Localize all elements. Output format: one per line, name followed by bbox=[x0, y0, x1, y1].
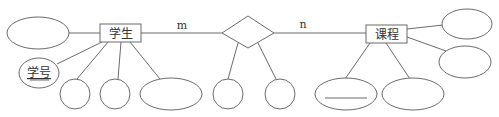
er-diagram: 学生 课程 m n 学号 bbox=[0, 0, 499, 117]
entity-student[interactable]: 学生 bbox=[100, 24, 141, 42]
student-attribute-3[interactable] bbox=[60, 79, 90, 109]
link-course-attr-1 bbox=[407, 25, 443, 29]
link-course-attr-4 bbox=[386, 43, 410, 79]
entity-student-label: 学生 bbox=[109, 26, 133, 41]
link-student-attr-4 bbox=[118, 42, 121, 79]
course-attribute-2[interactable] bbox=[439, 46, 491, 78]
entity-course[interactable]: 课程 bbox=[366, 25, 407, 43]
course-attribute-1[interactable] bbox=[442, 9, 492, 39]
link-student-attr-5 bbox=[130, 42, 160, 79]
relationship-diamond[interactable] bbox=[222, 16, 274, 48]
link-course-key bbox=[345, 43, 370, 79]
link-student-attr-3 bbox=[77, 42, 108, 79]
link-rel-attr-1 bbox=[228, 43, 238, 79]
student-attribute-5[interactable] bbox=[140, 78, 202, 110]
relationship-attribute-1[interactable] bbox=[213, 79, 243, 109]
course-attribute-key[interactable] bbox=[315, 78, 377, 110]
link-course-attr-2 bbox=[407, 37, 446, 51]
student-id-label: 学号 bbox=[27, 65, 51, 80]
cardinality-n: n bbox=[299, 18, 306, 31]
student-attribute-id[interactable]: 学号 bbox=[19, 58, 59, 88]
link-student-id bbox=[57, 42, 102, 64]
student-attribute-1[interactable] bbox=[7, 17, 69, 49]
entity-course-label: 课程 bbox=[375, 27, 399, 42]
student-attribute-4[interactable] bbox=[100, 79, 130, 109]
link-rel-attr-2 bbox=[258, 43, 276, 79]
relationship-attribute-2[interactable] bbox=[265, 79, 295, 109]
cardinality-m: m bbox=[177, 19, 188, 32]
course-attribute-4[interactable] bbox=[382, 78, 444, 110]
